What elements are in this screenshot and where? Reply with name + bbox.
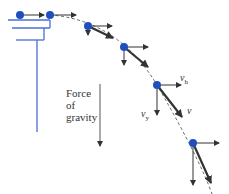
resultant-velocity-label: v [187, 105, 191, 116]
resultant-velocity-arrow [124, 47, 148, 67]
ball-5 [153, 81, 182, 117]
horizontal-velocity-label: vh [180, 72, 188, 86]
vertical-velocity-label: vy [141, 108, 149, 122]
ball-6 [189, 139, 219, 185]
ball-icon [153, 81, 161, 89]
ball-icon [46, 11, 54, 19]
gravity-label-line-2: of [66, 99, 97, 111]
resultant-velocity-arrow [193, 143, 211, 183]
ball-icon [189, 139, 197, 147]
resultant-velocity-arrow [88, 26, 113, 38]
gravity-label: Force of gravity [66, 87, 97, 123]
ball-1 [16, 11, 44, 19]
table [8, 20, 50, 132]
vy-subscript: y [145, 114, 149, 122]
resultant-velocity-arrow [157, 85, 182, 117]
ball-icon [84, 22, 92, 30]
vh-subscript: h [184, 78, 188, 86]
projectile-diagram [0, 0, 229, 194]
gravity-label-line-3: gravity [66, 111, 97, 123]
ball-icon [16, 11, 24, 19]
ball-3 [84, 22, 113, 38]
ball-2 [46, 11, 76, 19]
ball-4 [120, 43, 148, 67]
gravity-label-line-1: Force [66, 87, 97, 99]
ball-icon [120, 43, 128, 51]
